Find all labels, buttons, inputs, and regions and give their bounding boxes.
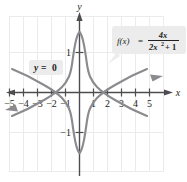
x-tick-label-2: 2 [105,98,110,109]
x-tick-label-5: 5 [147,98,152,109]
x-tick-label--2: −2 [46,98,57,109]
x-tick-label-4: 4 [133,98,138,109]
graph-figure: −5 −4 −3 −2 −1 1 2 3 4 5 1 −1 x y y = 0 … [0,0,187,182]
y-axis-label: y [76,1,82,12]
function-label-denominator-term: + 1 [165,42,176,52]
x-axis-label: x [175,87,181,98]
x-tick-label--4: −4 [18,98,29,109]
asymptote-callout: y = 0 [29,60,63,75]
asymptote-label-y: y [33,63,39,73]
y-tick-label-1: 1 [66,47,71,58]
function-label-numerator: 4x [158,30,168,40]
y-tick-label--1: −1 [60,127,71,138]
asymptote-label-value: 0 [52,63,57,73]
function-label-denominator-exponent: 2 [161,41,164,47]
function-label-fx: f(x) [117,36,130,46]
function-label-denominator-base: 2x [148,42,158,52]
function-label-equals: = [138,36,143,46]
asymptote-label-equals: = [41,63,46,73]
